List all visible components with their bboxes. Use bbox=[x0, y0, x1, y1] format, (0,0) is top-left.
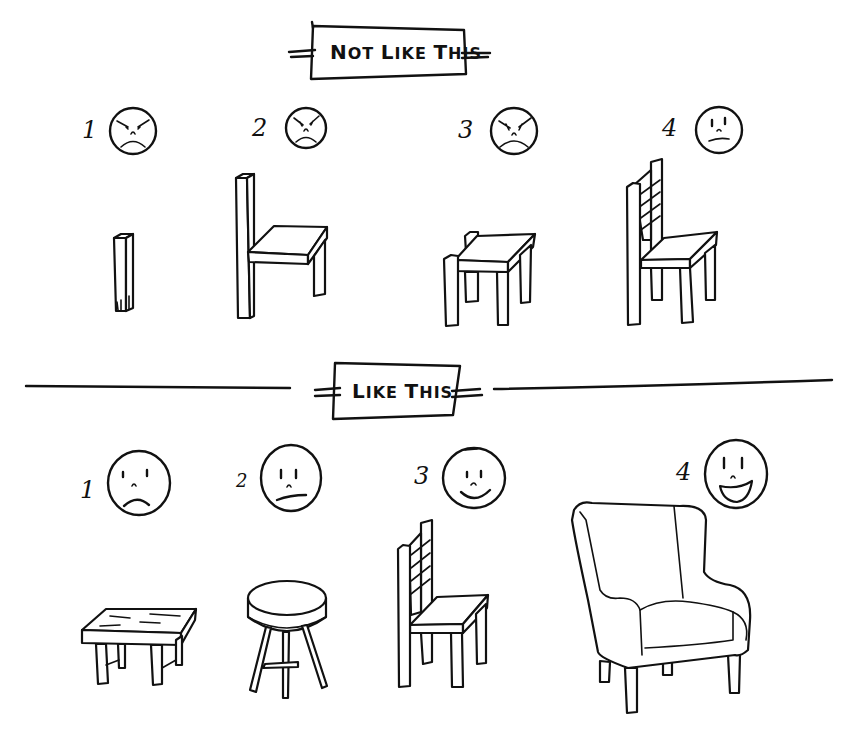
object-ladder-chair-bottom bbox=[398, 520, 488, 687]
object-backless-chair bbox=[444, 232, 535, 326]
item-number-good-2: 2 bbox=[236, 470, 247, 491]
banner-title-not-like-this: NOT LIKE THIS bbox=[330, 40, 482, 64]
banner-title-like-this: LIKE THIS bbox=[352, 379, 453, 403]
object-rough-bench bbox=[82, 609, 196, 685]
illustration-canvas bbox=[0, 0, 852, 734]
item-number-bad-4: 4 bbox=[662, 114, 677, 142]
face-very-happy-4 bbox=[705, 440, 767, 508]
face-angry-3 bbox=[491, 108, 537, 154]
divider-left bbox=[26, 386, 290, 388]
object-single-leg bbox=[114, 234, 133, 311]
item-number-bad-3: 3 bbox=[458, 116, 473, 144]
face-sad-1 bbox=[108, 451, 170, 515]
object-half-chair bbox=[236, 174, 327, 318]
face-angry-1 bbox=[110, 108, 156, 154]
object-ladder-chair-top bbox=[627, 159, 717, 325]
face-displeased-4 bbox=[696, 107, 742, 153]
item-number-good-4: 4 bbox=[676, 458, 691, 486]
item-number-bad-2: 2 bbox=[252, 114, 267, 142]
face-unsure-2 bbox=[261, 445, 321, 511]
face-smiling-3 bbox=[443, 448, 505, 508]
object-round-stool bbox=[248, 581, 327, 698]
item-number-good-3: 3 bbox=[414, 462, 429, 490]
item-number-bad-1: 1 bbox=[82, 116, 97, 144]
face-angry-2 bbox=[286, 108, 326, 148]
item-number-good-1: 1 bbox=[80, 476, 95, 504]
banner-dash-left bbox=[315, 388, 340, 396]
object-wingback-armchair bbox=[572, 502, 750, 713]
divider-right bbox=[494, 380, 832, 389]
